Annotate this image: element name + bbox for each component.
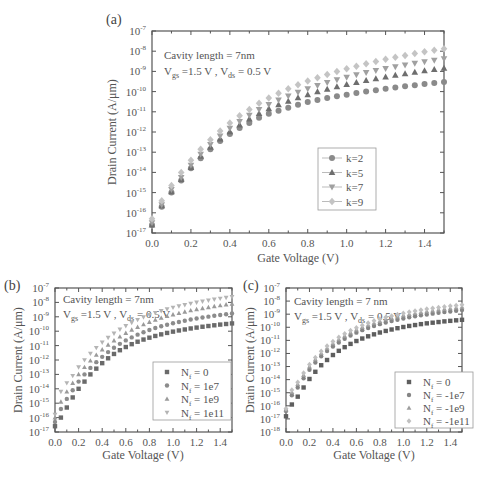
- data-point-circle: [183, 318, 187, 322]
- x-axis-title: Gate Voltage (V): [257, 251, 339, 265]
- data-point-circle: [266, 111, 272, 117]
- y-tick-label: 10-10: [260, 320, 281, 333]
- data-point-square: [106, 356, 110, 360]
- data-point-circle: [130, 335, 134, 339]
- data-point-diamond: [295, 380, 300, 386]
- data-point-triangle-up: [392, 72, 399, 78]
- data-point-diamond: [348, 328, 353, 334]
- data-point-diamond: [412, 50, 419, 58]
- data-point-diamond: [227, 119, 234, 127]
- data-point-diamond: [353, 62, 360, 70]
- data-point-square: [76, 387, 80, 391]
- data-point-circle: [422, 81, 428, 87]
- data-point-triangle-down: [412, 61, 419, 67]
- x-tick-label: 0.8: [301, 237, 315, 249]
- y-tick-label: 10-12: [126, 125, 147, 138]
- x-tick-label: 0.8: [373, 436, 387, 448]
- annotation-vgs-symbol: V: [294, 310, 302, 322]
- data-point-circle: [200, 315, 204, 319]
- data-point-diamond: [373, 58, 380, 66]
- data-point-triangle-up: [135, 324, 140, 328]
- data-point-circle: [218, 313, 222, 317]
- data-point-square: [331, 353, 335, 357]
- legend-marker: [165, 370, 169, 374]
- data-point-square: [454, 318, 458, 322]
- data-point-triangle-down: [76, 365, 81, 369]
- data-point-circle: [412, 82, 418, 88]
- data-point-circle: [82, 372, 86, 376]
- data-point-square: [284, 414, 288, 418]
- y-tick-label: 10-10: [126, 85, 147, 98]
- data-point-triangle-up: [343, 81, 350, 87]
- data-point-circle: [118, 342, 122, 346]
- x-tick-label: 0.6: [119, 436, 133, 448]
- data-point-square: [153, 334, 157, 338]
- panel-label: (c): [243, 278, 259, 294]
- data-point-triangle-up: [171, 312, 176, 316]
- data-point-square: [372, 332, 376, 336]
- data-point-circle: [324, 95, 330, 101]
- data-point-triangle-down: [94, 346, 99, 350]
- legend-marker: [165, 383, 169, 387]
- y-tick-label: 10-14: [126, 165, 147, 178]
- data-point-triangle-up: [224, 302, 229, 306]
- data-point-triangle-down: [382, 66, 389, 72]
- x-tick-label: 1.0: [340, 237, 354, 249]
- data-point-triangle-down: [402, 62, 409, 68]
- data-point-diamond: [431, 46, 438, 54]
- chart-panel-a: (a) Cavity length = 7nm Vgs =1.5 V , Vds…: [105, 12, 447, 265]
- data-point-square: [53, 424, 57, 428]
- data-point-triangle-down: [266, 102, 273, 108]
- data-point-square: [384, 329, 388, 333]
- data-point-triangle-up: [58, 399, 63, 403]
- data-point-circle: [402, 83, 408, 89]
- x-tick-label: 0.4: [95, 436, 109, 448]
- data-point-triangle-down: [188, 302, 193, 306]
- data-point-square: [171, 329, 175, 333]
- data-point-diamond: [246, 106, 253, 114]
- data-point-triangle-up: [334, 83, 341, 89]
- data-point-square: [159, 332, 163, 336]
- data-point-diamond: [275, 89, 282, 97]
- annotation-bias-rest: =1.5 V , V: [78, 308, 127, 320]
- data-point-square: [348, 342, 352, 346]
- data-point-circle: [212, 314, 216, 318]
- data-point-triangle-up: [363, 77, 370, 83]
- x-tick-label: 0.8: [143, 436, 157, 448]
- y-axis-title: Drain Current (A/μm): [11, 307, 25, 413]
- x-tick-label: 1.2: [420, 436, 434, 448]
- data-point-circle: [314, 97, 320, 103]
- data-point-diamond: [424, 306, 429, 312]
- data-point-diamond: [336, 335, 341, 341]
- y-tick-label: 10-10: [29, 324, 50, 337]
- data-point-triangle-up: [176, 311, 181, 315]
- data-point-triangle-up: [314, 88, 321, 94]
- x-tick-label: 0.6: [350, 436, 364, 448]
- data-point-triangle-up: [70, 381, 75, 385]
- data-point-square: [112, 352, 116, 356]
- data-point-diamond: [256, 100, 263, 108]
- data-point-triangle-down: [100, 341, 105, 345]
- data-point-circle: [53, 420, 57, 424]
- data-point-square: [71, 395, 75, 399]
- data-point-triangle-down: [373, 68, 380, 74]
- data-point-triangle-down: [88, 352, 93, 356]
- y-tick-label: 10-15: [29, 396, 50, 409]
- data-point-triangle-down: [123, 324, 128, 328]
- data-point-triangle-down: [129, 321, 134, 325]
- data-point-square: [360, 336, 364, 340]
- data-point-square: [88, 372, 92, 376]
- data-point-triangle-up: [112, 338, 117, 342]
- data-point-triangle-up: [182, 309, 187, 313]
- data-point-triangle-down: [194, 301, 199, 305]
- legend-marker: [407, 380, 411, 384]
- data-point-triangle-down: [353, 72, 360, 78]
- data-point-square: [135, 340, 139, 344]
- data-point-triangle-down: [112, 331, 117, 335]
- data-point-square: [389, 327, 393, 331]
- data-point-circle: [94, 360, 98, 364]
- data-point-triangle-up: [324, 86, 331, 92]
- data-point-square: [189, 326, 193, 330]
- annotation-vgs-symbol: V: [164, 65, 172, 77]
- data-point-circle: [344, 92, 350, 98]
